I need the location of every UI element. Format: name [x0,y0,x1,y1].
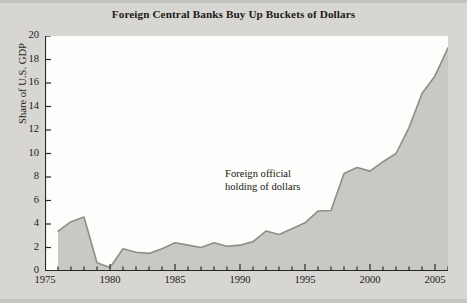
y-axis-tick-label: 18 [15,53,39,64]
page-title: Foreign Central Banks Buy Up Buckets of … [0,8,467,20]
y-axis-tick-label: 8 [15,170,39,181]
y-axis-tick-label: 10 [15,147,39,158]
x-axis-tick-label: 1975 [25,274,65,285]
y-axis-tick-label: 14 [15,100,39,111]
y-axis-tick-label: 16 [15,76,39,87]
y-axis-tick-label: 4 [15,217,39,228]
page-edge-bottom [0,299,467,303]
plot-area [45,36,448,271]
x-axis-tick-label: 1985 [155,274,195,285]
y-axis-tick-label: 6 [15,194,39,205]
x-axis-tick-label: 1990 [220,274,260,285]
y-axis-tick-label: 20 [15,29,39,40]
axis-svg [45,36,448,271]
x-axis-tick-label: 2000 [350,274,390,285]
y-axis-tick-label: 2 [15,241,39,252]
series-annotation: Foreign official holding of dollars [225,167,300,194]
y-axis-tick-label: 12 [15,123,39,134]
page-edge-top [0,0,467,3]
x-axis-tick-label: 2005 [415,274,455,285]
figure-page: Foreign Central Banks Buy Up Buckets of … [0,0,467,303]
x-axis-tick-label: 1980 [90,274,130,285]
x-axis-tick-label: 1995 [285,274,325,285]
